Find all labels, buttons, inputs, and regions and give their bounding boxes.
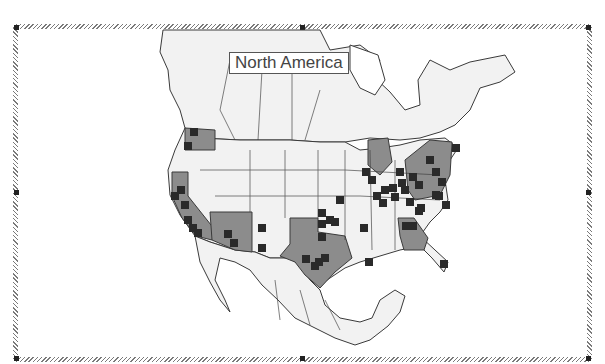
location-marker[interactable] [402, 222, 410, 230]
location-marker[interactable] [362, 168, 370, 176]
location-marker[interactable] [230, 239, 238, 247]
location-marker[interactable] [336, 196, 344, 204]
map-title-label: North America [229, 52, 349, 74]
location-marker[interactable] [432, 191, 440, 199]
location-marker[interactable] [181, 201, 189, 209]
location-marker[interactable] [440, 260, 448, 268]
location-marker[interactable] [331, 218, 339, 226]
location-marker[interactable] [302, 255, 310, 263]
location-marker[interactable] [409, 222, 417, 230]
location-marker[interactable] [318, 233, 326, 241]
location-marker[interactable] [409, 173, 417, 181]
location-marker[interactable] [368, 176, 376, 184]
location-marker[interactable] [442, 201, 450, 209]
location-marker[interactable] [389, 184, 397, 192]
location-marker[interactable] [311, 262, 319, 270]
location-marker[interactable] [406, 198, 414, 206]
location-marker[interactable] [426, 156, 434, 164]
location-marker[interactable] [401, 186, 409, 194]
location-marker[interactable] [318, 209, 326, 217]
location-marker[interactable] [432, 168, 440, 176]
location-marker[interactable] [318, 220, 326, 228]
location-marker[interactable] [321, 254, 329, 262]
location-marker[interactable] [391, 193, 399, 201]
location-marker[interactable] [417, 204, 425, 212]
location-marker[interactable] [365, 258, 373, 266]
location-marker[interactable] [398, 179, 406, 187]
location-marker[interactable] [194, 229, 202, 237]
location-marker[interactable] [373, 192, 381, 200]
location-marker[interactable] [171, 192, 179, 200]
location-marker[interactable] [360, 224, 368, 232]
location-marker[interactable] [190, 128, 198, 136]
location-marker[interactable] [258, 224, 266, 232]
location-marker[interactable] [452, 144, 460, 152]
location-marker[interactable] [381, 186, 389, 194]
location-marker[interactable] [438, 178, 446, 186]
location-marker[interactable] [379, 199, 387, 207]
location-marker[interactable] [396, 168, 404, 176]
location-marker[interactable] [415, 181, 423, 189]
location-marker[interactable] [224, 230, 232, 238]
location-marker[interactable] [184, 216, 192, 224]
location-marker[interactable] [258, 244, 266, 252]
canada-region [160, 30, 515, 142]
location-marker[interactable] [184, 142, 192, 150]
